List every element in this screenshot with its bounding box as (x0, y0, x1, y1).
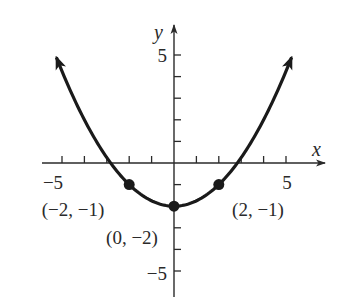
point-label: (0, −2) (106, 227, 158, 249)
y-tick-label: −5 (147, 263, 167, 284)
x-tick-label: 5 (282, 172, 292, 193)
x-tick-label: −5 (43, 172, 63, 193)
labels: yx5−5−55(−2, −1)(0, −2)(2, −1) (42, 21, 321, 284)
data-point (124, 179, 135, 190)
point-label: (2, −1) (232, 199, 284, 221)
point-label: (−2, −1) (42, 199, 105, 221)
data-point (169, 201, 180, 212)
y-axis-label: y (152, 21, 163, 44)
x-axis-label: x (311, 138, 321, 160)
data-point (213, 179, 224, 190)
parabola-graph: yx5−5−55(−2, −1)(0, −2)(2, −1) (0, 0, 344, 308)
y-tick-label: 5 (158, 45, 168, 66)
